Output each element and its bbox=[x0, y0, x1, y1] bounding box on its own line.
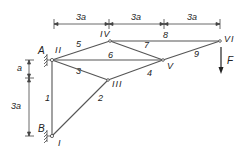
joint-IV bbox=[109, 40, 112, 43]
support-label-a: A bbox=[38, 46, 46, 56]
member-7 bbox=[110, 41, 163, 60]
joint-III bbox=[107, 79, 110, 82]
dim-top-2: 3a bbox=[131, 13, 141, 22]
node-label-vi: VI bbox=[224, 35, 235, 44]
member-label-7: 7 bbox=[144, 41, 149, 50]
truss-diagram bbox=[0, 0, 245, 150]
node-label-v: V bbox=[167, 62, 174, 71]
node-label-i: I bbox=[58, 139, 62, 148]
load-label-f: F bbox=[227, 56, 234, 66]
joint-V bbox=[162, 59, 165, 62]
member-label-3: 3 bbox=[76, 67, 81, 76]
joint-VI bbox=[219, 40, 222, 43]
node-label-ii: II bbox=[55, 46, 62, 55]
node-label-iii: III bbox=[112, 80, 123, 89]
dim-left-1: a bbox=[17, 64, 22, 73]
member-label-8: 8 bbox=[163, 31, 168, 40]
member-label-4: 4 bbox=[147, 69, 152, 78]
left-dimension-line bbox=[25, 60, 34, 136]
node-label-iv: IV bbox=[100, 30, 111, 39]
member-label-5: 5 bbox=[76, 40, 81, 49]
member-label-2: 2 bbox=[98, 94, 103, 103]
load-arrow-icon bbox=[219, 47, 224, 74]
dim-top-1: 3a bbox=[76, 13, 86, 22]
member-label-9: 9 bbox=[194, 50, 199, 59]
member-4 bbox=[108, 60, 163, 80]
member-2 bbox=[52, 80, 108, 136]
dim-top-3: 3a bbox=[187, 13, 197, 22]
member-9 bbox=[163, 41, 220, 60]
dim-left-2: 3a bbox=[11, 102, 21, 111]
support-label-b: B bbox=[38, 124, 46, 134]
member-label-6: 6 bbox=[108, 51, 113, 60]
member-label-1: 1 bbox=[45, 94, 50, 103]
